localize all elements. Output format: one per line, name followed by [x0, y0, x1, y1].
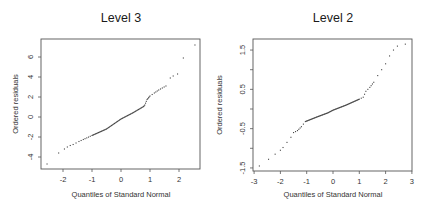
- data-point: [58, 152, 59, 153]
- data-point: [259, 165, 260, 166]
- data-point: [144, 104, 145, 105]
- y-tick-label: -4: [26, 154, 35, 161]
- data-points: [47, 44, 196, 164]
- chart-title: Level 2: [313, 11, 353, 25]
- data-point: [88, 137, 89, 138]
- data-point: [146, 101, 147, 102]
- qq-plot-level-3: Level 3 -2-1012-4-20246 Quantiles of Sta…: [11, 11, 200, 199]
- y-tick-label: 2: [26, 95, 35, 99]
- data-point: [78, 141, 79, 142]
- data-point: [177, 73, 178, 74]
- data-point: [64, 148, 65, 149]
- y-tick-label: 0.5: [238, 84, 247, 94]
- x-tick-label: 0: [331, 177, 335, 186]
- x-tick-label: 3: [410, 177, 414, 186]
- data-point: [76, 142, 77, 143]
- axis-ticks: -2-1012-4-20246: [26, 55, 181, 184]
- y-tick-label: 4: [26, 75, 35, 79]
- data-point: [371, 85, 372, 86]
- data-point: [164, 86, 165, 87]
- data-point: [367, 89, 368, 90]
- x-tick-label: 1: [357, 177, 361, 186]
- data-point: [290, 137, 291, 138]
- data-point: [90, 136, 91, 137]
- data-point: [81, 140, 82, 141]
- data-point: [160, 88, 161, 89]
- x-axis-label: Quantiles of Standard Normal: [72, 190, 171, 199]
- data-point: [154, 92, 155, 93]
- y-axis-label: Ordered residuals: [11, 74, 20, 134]
- data-point: [158, 89, 159, 90]
- data-point: [293, 132, 294, 133]
- data-point: [393, 50, 394, 51]
- data-point: [300, 127, 301, 128]
- data-point: [280, 150, 281, 151]
- data-point: [84, 138, 85, 139]
- data-point: [301, 126, 302, 127]
- data-point: [268, 159, 269, 160]
- data-point: [286, 142, 287, 143]
- data-point: [86, 137, 87, 138]
- data-point: [303, 124, 304, 125]
- data-point: [297, 130, 298, 131]
- data-point: [47, 163, 48, 164]
- data-point: [295, 131, 296, 132]
- data-point: [155, 91, 156, 92]
- chart-title: Level 3: [101, 11, 141, 25]
- data-point: [67, 146, 68, 147]
- data-point: [397, 46, 398, 47]
- data-point: [385, 63, 386, 64]
- data-point: [361, 98, 362, 99]
- data-point: [364, 94, 365, 95]
- data-point: [162, 87, 163, 88]
- data-point: [369, 87, 370, 88]
- data-point: [83, 139, 84, 140]
- data-point: [173, 75, 174, 76]
- axis-ticks: -3-2-10123-1.5-0.50.51.5: [238, 45, 414, 186]
- data-point: [70, 145, 71, 146]
- data-point: [359, 99, 360, 100]
- data-point: [363, 97, 364, 98]
- data-point: [73, 144, 74, 145]
- y-tick-label: -2: [26, 134, 35, 141]
- x-tick-label: 2: [177, 175, 181, 184]
- data-point: [275, 154, 276, 155]
- x-tick-label: 1: [148, 175, 152, 184]
- data-point: [152, 94, 153, 95]
- y-tick-label: 6: [26, 55, 35, 59]
- data-point: [372, 83, 373, 84]
- y-tick-label: 0: [26, 115, 35, 119]
- x-tick-label: 0: [119, 175, 123, 184]
- data-point: [145, 103, 146, 104]
- x-tick-label: -2: [60, 175, 67, 184]
- data-point: [165, 85, 166, 86]
- x-tick-label: -1: [303, 177, 310, 186]
- data-point: [298, 129, 299, 130]
- data-point: [282, 147, 283, 148]
- data-point: [381, 69, 382, 70]
- y-tick-label: 1.5: [238, 45, 247, 55]
- y-axis-label: Ordered residuals: [215, 75, 224, 135]
- x-tick-label: -1: [89, 175, 96, 184]
- qq-plot-level-2: Level 2 -3-2-10123-1.5-0.50.51.5 Quantil…: [215, 11, 414, 199]
- y-tick-label: -0.5: [238, 122, 247, 135]
- x-tick-label: 2: [384, 177, 388, 186]
- data-point: [373, 82, 374, 83]
- data-points: [259, 44, 406, 167]
- x-axis-label: Quantiles of Standard Normal: [284, 190, 383, 199]
- x-tick-label: -3: [251, 177, 258, 186]
- data-point: [365, 91, 366, 92]
- y-tick-label: -1.5: [238, 161, 247, 174]
- chart-canvas: Level 3 -2-1012-4-20246 Quantiles of Sta…: [0, 0, 426, 213]
- data-point: [389, 55, 390, 56]
- data-point: [194, 44, 195, 45]
- data-point: [149, 95, 150, 96]
- plot-frame: [253, 39, 412, 171]
- data-point: [377, 75, 378, 76]
- data-point: [157, 90, 158, 91]
- data-point: [183, 57, 184, 58]
- data-point: [170, 77, 171, 78]
- data-point: [405, 44, 406, 45]
- x-tick-label: -2: [277, 177, 284, 186]
